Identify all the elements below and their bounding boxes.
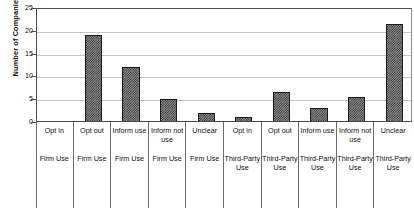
category-cell: Inform not useThird-Party Use bbox=[337, 122, 375, 208]
bar bbox=[160, 99, 177, 122]
category-label-primary: Opt in bbox=[36, 127, 73, 136]
bar bbox=[386, 24, 403, 122]
category-cell: Inform not useFirm Use bbox=[149, 122, 187, 208]
bar bbox=[273, 92, 290, 122]
category-label-group: Third-Party Use bbox=[224, 155, 261, 172]
category-label-group: Third-Party Use bbox=[337, 155, 374, 172]
category-label-table: Opt inFirm UseOpt outFirm UseInform useF… bbox=[36, 122, 412, 208]
bar bbox=[85, 35, 102, 122]
category-label-group: Third-Party Use bbox=[262, 155, 299, 172]
category-label-primary: Opt in bbox=[224, 127, 261, 136]
category-label-primary: Inform use bbox=[111, 127, 148, 136]
category-cell: Opt inThird-Party Use bbox=[224, 122, 262, 208]
category-label-primary: Inform not use bbox=[149, 127, 186, 144]
gridline-20 bbox=[37, 32, 411, 33]
category-label-primary: Opt out bbox=[74, 127, 111, 136]
category-cell: Opt outThird-Party Use bbox=[262, 122, 300, 208]
category-cell: UnclearFirm Use bbox=[186, 122, 224, 208]
category-cell: Opt inFirm Use bbox=[36, 122, 74, 208]
category-label-group: Firm Use bbox=[36, 155, 73, 164]
category-label-group: Firm Use bbox=[111, 155, 148, 164]
category-label-group: Firm Use bbox=[74, 155, 111, 164]
category-label-primary: Inform use bbox=[299, 127, 336, 136]
bar bbox=[122, 67, 139, 122]
plot-area bbox=[36, 8, 412, 122]
bar bbox=[310, 108, 327, 122]
y-axis-title: Number of Companies bbox=[11, 0, 23, 84]
category-cell: Inform useThird-Party Use bbox=[299, 122, 337, 208]
bar bbox=[348, 97, 365, 122]
category-label-group: Third-Party Use bbox=[299, 155, 336, 172]
category-label-primary: Unclear bbox=[186, 127, 223, 136]
chart-title-clipped bbox=[0, 0, 414, 7]
category-label-primary: Inform not use bbox=[337, 127, 374, 144]
category-cell: Inform useFirm Use bbox=[111, 122, 149, 208]
category-cell: Opt outFirm Use bbox=[74, 122, 112, 208]
category-cell: UnclearThird-Party Use bbox=[374, 122, 412, 208]
category-label-group: Firm Use bbox=[149, 155, 186, 164]
category-label-primary: Opt out bbox=[262, 127, 299, 136]
category-label-primary: Unclear bbox=[374, 127, 412, 136]
category-label-group: Third-Party Use bbox=[374, 155, 412, 172]
bar-chart-figure: Number of Companies 0510152025 Opt inFir… bbox=[0, 0, 414, 221]
category-label-group: Firm Use bbox=[186, 155, 223, 164]
